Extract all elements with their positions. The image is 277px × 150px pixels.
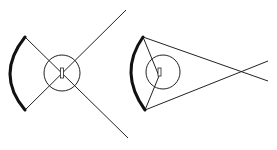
- center-aperture-mark: [61, 68, 64, 78]
- diverging-rays-figure: [10, 10, 128, 138]
- center-aperture-mark: [158, 68, 161, 76]
- optics-diagram: [0, 0, 277, 150]
- light-ray-line: [25, 10, 126, 110]
- light-ray-line: [25, 37, 128, 138]
- lens-circle: [146, 55, 180, 89]
- converging-rays-figure: [131, 37, 268, 110]
- curved-surface-arc: [10, 37, 25, 110]
- curved-surface-arc: [131, 37, 145, 110]
- light-ray-line: [143, 37, 268, 81]
- diagram-canvas: [0, 0, 277, 150]
- light-ray-line: [145, 61, 268, 110]
